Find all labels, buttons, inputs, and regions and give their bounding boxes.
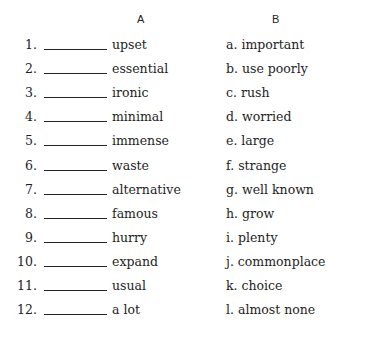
- column-a-word: essential: [112, 61, 168, 76]
- exercise-row: 2.essentialb. use poorly: [0, 61, 369, 81]
- answer-blank[interactable]: [44, 97, 107, 98]
- exercise-row: 6.wastef. strange: [0, 158, 369, 178]
- item-number: 3.: [25, 85, 37, 100]
- answer-blank[interactable]: [44, 314, 107, 315]
- item-number: 12.: [17, 302, 37, 317]
- column-a-word: immense: [112, 133, 169, 148]
- answer-blank[interactable]: [44, 145, 107, 146]
- item-number: 9.: [25, 230, 37, 245]
- answer-blank[interactable]: [44, 194, 107, 195]
- exercise-row: 8.famoush. grow: [0, 206, 369, 226]
- item-number: 5.: [25, 133, 37, 148]
- item-number: 6.: [25, 158, 37, 173]
- column-a-word: waste: [112, 158, 149, 173]
- column-a-header: A: [137, 13, 144, 25]
- column-b-option: h. grow: [226, 206, 274, 221]
- exercise-row: 3.ironicc. rush: [0, 85, 369, 105]
- column-b-option: a. important: [226, 37, 304, 52]
- column-b-option: l. almost none: [226, 302, 315, 317]
- column-b-option: i. plenty: [226, 230, 277, 245]
- item-number: 7.: [25, 182, 37, 197]
- item-number: 1.: [25, 37, 37, 52]
- column-b-header: B: [272, 13, 279, 25]
- answer-blank[interactable]: [44, 242, 107, 243]
- exercise-row: 4.minimald. worried: [0, 109, 369, 129]
- column-a-word: usual: [112, 278, 146, 293]
- exercise-row: 11.usualk. choice: [0, 278, 369, 298]
- item-number: 4.: [25, 109, 37, 124]
- item-number: 8.: [25, 206, 37, 221]
- column-b-option: k. choice: [226, 278, 283, 293]
- column-b-option: e. large: [226, 133, 274, 148]
- column-b-option: f. strange: [226, 158, 286, 173]
- exercise-row: 1.upseta. important: [0, 37, 369, 57]
- answer-blank[interactable]: [44, 49, 107, 50]
- exercise-row: 12.a lotl. almost none: [0, 302, 369, 322]
- column-a-word: minimal: [112, 109, 163, 124]
- column-a-word: hurry: [112, 230, 147, 245]
- exercise-row: 10.expandj. commonplace: [0, 254, 369, 274]
- column-a-word: alternative: [112, 182, 181, 197]
- answer-blank[interactable]: [44, 218, 107, 219]
- answer-blank[interactable]: [44, 266, 107, 267]
- column-a-word: upset: [112, 37, 147, 52]
- answer-blank[interactable]: [44, 290, 107, 291]
- column-b-option: d. worried: [226, 109, 292, 124]
- answer-blank[interactable]: [44, 121, 107, 122]
- exercise-row: 9.hurryi. plenty: [0, 230, 369, 250]
- column-a-word: famous: [112, 206, 158, 221]
- exercise-row: 7.alternativeg. well known: [0, 182, 369, 202]
- column-a-word: expand: [112, 254, 158, 269]
- answer-blank[interactable]: [44, 170, 107, 171]
- column-a-word: a lot: [112, 302, 140, 317]
- exercise-row: 5.immensee. large: [0, 133, 369, 153]
- column-b-option: b. use poorly: [226, 61, 308, 76]
- answer-blank[interactable]: [44, 73, 107, 74]
- item-number: 10.: [17, 254, 37, 269]
- column-b-option: c. rush: [226, 85, 269, 100]
- item-number: 11.: [17, 278, 37, 293]
- column-a-word: ironic: [112, 85, 149, 100]
- item-number: 2.: [25, 61, 37, 76]
- column-b-option: j. commonplace: [226, 254, 325, 269]
- column-b-option: g. well known: [226, 182, 314, 197]
